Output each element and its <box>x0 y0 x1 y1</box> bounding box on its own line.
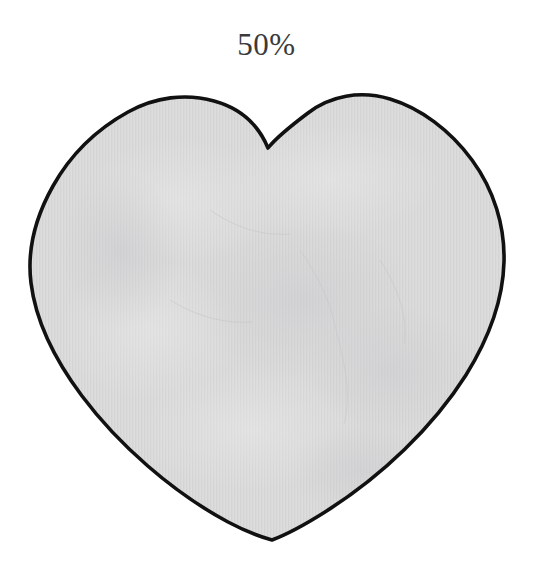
canvas: 50% <box>0 0 533 588</box>
heart-svg <box>0 0 533 588</box>
heart-fill-group <box>0 0 533 588</box>
heart-figure <box>0 0 533 588</box>
heart-mottle-group <box>60 125 475 515</box>
